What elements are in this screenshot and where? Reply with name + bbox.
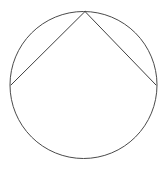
geometry-figure-svg [0, 0, 166, 176]
figure-canvas [0, 0, 166, 176]
circle-outline [10, 12, 157, 159]
left-chord-line [11, 12, 85, 86]
right-chord-line [85, 12, 156, 86]
